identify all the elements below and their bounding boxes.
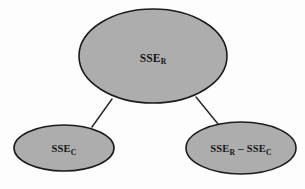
- connector-root-to-right: [196, 97, 218, 124]
- label-sse-r-subscript: R: [161, 57, 167, 66]
- label-diff-operator: –: [237, 143, 244, 154]
- node-sse-r-minus-sse-c[interactable]: SSER–SSEC: [186, 122, 296, 174]
- node-sse-c[interactable]: SSEC: [14, 125, 114, 171]
- diagram-canvas: SSER SSEC SSER–SSEC: [0, 0, 305, 189]
- label-sse-c-base: SSE: [52, 143, 71, 154]
- label-diff-subscript-2: C: [266, 148, 272, 157]
- label-sse-r-base: SSE: [140, 52, 161, 64]
- label-diff-base-1: SSE: [210, 143, 229, 154]
- decomposition-diagram: SSER SSEC SSER–SSEC: [0, 0, 305, 189]
- label-sse-c-subscript: C: [71, 148, 77, 157]
- label-diff-subscript-1: R: [230, 148, 236, 157]
- node-sse-r[interactable]: SSER: [79, 9, 227, 103]
- label-diff-base-2: SSE: [247, 143, 266, 154]
- connector-root-to-left: [92, 99, 112, 127]
